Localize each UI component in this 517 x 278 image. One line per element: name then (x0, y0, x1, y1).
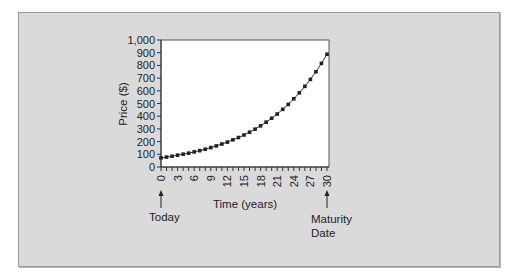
y-tick-label: 500 (137, 98, 155, 110)
x-tick-label: 3 (172, 175, 184, 181)
data-point-marker (309, 78, 313, 82)
maturity-label-line1: Maturity (311, 213, 352, 225)
data-point-marker (181, 152, 185, 156)
data-point-marker (165, 155, 169, 159)
y-tick-label: 700 (137, 72, 155, 84)
data-point-marker (242, 133, 246, 137)
data-point-marker (298, 91, 302, 95)
data-point-marker (187, 151, 191, 155)
data-point-marker (170, 154, 174, 158)
y-tick-label: 600 (137, 85, 155, 97)
plot-area (161, 40, 329, 167)
x-axis-title: Time (years) (213, 198, 277, 210)
data-point-marker (314, 70, 318, 74)
maturity-label-line2: Date (311, 227, 335, 239)
data-point-marker (192, 150, 196, 154)
price-chart: 01002003004005006007008009001,000 036912… (0, 0, 517, 278)
x-tick-label: 15 (238, 175, 250, 187)
data-point-marker (215, 144, 219, 148)
data-point-marker (275, 112, 279, 116)
x-tick-label: 21 (271, 175, 283, 187)
data-point-marker (198, 149, 202, 153)
x-tick-label: 24 (288, 175, 300, 187)
data-point-marker (176, 153, 180, 157)
data-point-marker (253, 127, 257, 131)
y-axis: 01002003004005006007008009001,000 (127, 34, 161, 173)
data-point-marker (220, 142, 224, 146)
x-tick-label: 0 (155, 175, 167, 181)
y-tick-label: 400 (137, 110, 155, 122)
y-tick-label: 300 (137, 123, 155, 135)
x-tick-label: 18 (255, 175, 267, 187)
data-point-marker (303, 85, 307, 89)
arrowhead-icon (325, 190, 330, 196)
data-point-marker (264, 120, 268, 124)
y-tick-label: 200 (137, 136, 155, 148)
data-point-marker (259, 124, 263, 128)
data-point-marker (270, 116, 274, 120)
y-tick-label: 0 (149, 161, 155, 173)
x-tick-label: 27 (304, 175, 316, 187)
data-point-marker (292, 97, 296, 101)
annotation-maturity-date: Maturity Date (311, 190, 352, 239)
data-point-marker (226, 140, 230, 144)
data-point-marker (159, 156, 163, 160)
arrowhead-icon (159, 190, 164, 196)
x-axis: 036912151821242730 (155, 167, 333, 187)
data-point-marker (281, 108, 285, 112)
y-axis-title: Price ($) (117, 82, 129, 126)
data-point-marker (209, 146, 213, 150)
y-tick-label: 900 (137, 47, 155, 59)
x-tick-label: 12 (221, 175, 233, 187)
x-tick-label: 6 (188, 175, 200, 181)
y-tick-label: 100 (137, 148, 155, 160)
data-point-marker (325, 52, 329, 56)
y-tick-label: 1,000 (127, 34, 155, 46)
today-label: Today (149, 211, 180, 223)
x-tick-label: 30 (321, 175, 333, 187)
data-point-marker (320, 62, 324, 66)
data-point-marker (203, 147, 207, 151)
data-point-marker (286, 103, 290, 107)
y-tick-label: 800 (137, 59, 155, 71)
data-point-marker (248, 130, 252, 134)
annotation-today: Today (149, 190, 180, 223)
x-tick-label: 9 (205, 175, 217, 181)
data-point-marker (231, 138, 235, 142)
data-point-marker (237, 136, 241, 140)
